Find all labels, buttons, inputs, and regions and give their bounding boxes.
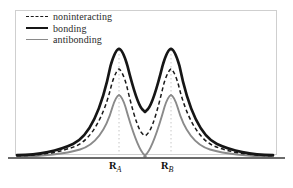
legend-item-noninteracting: noninteracting — [26, 11, 156, 23]
axis-tick-subscript-ra: A — [117, 165, 122, 174]
legend-item-bonding: bonding — [26, 23, 156, 35]
legend-item-antibonding: antibonding — [26, 34, 156, 46]
legend-label-antibonding: antibonding — [53, 34, 102, 45]
axis-tick-label-ra: RA — [109, 160, 121, 176]
axis-tick-symbol-ra: R — [109, 160, 117, 171]
axis-tick-label-rb: RB — [161, 160, 173, 176]
legend: noninteracting bonding antibonding — [26, 11, 156, 46]
legend-label-noninteracting: noninteracting — [53, 11, 112, 22]
axis-tick-subscript-rb: B — [169, 165, 174, 174]
gray-line-icon — [26, 34, 48, 45]
legend-label-bonding: bonding — [53, 23, 86, 34]
solid-line-icon — [26, 23, 48, 34]
molecular-orbital-density-figure: noninteracting bonding antibonding RA RB — [0, 0, 293, 188]
axis-tick-symbol-rb: R — [161, 160, 169, 171]
dashed-line-icon — [26, 11, 48, 22]
